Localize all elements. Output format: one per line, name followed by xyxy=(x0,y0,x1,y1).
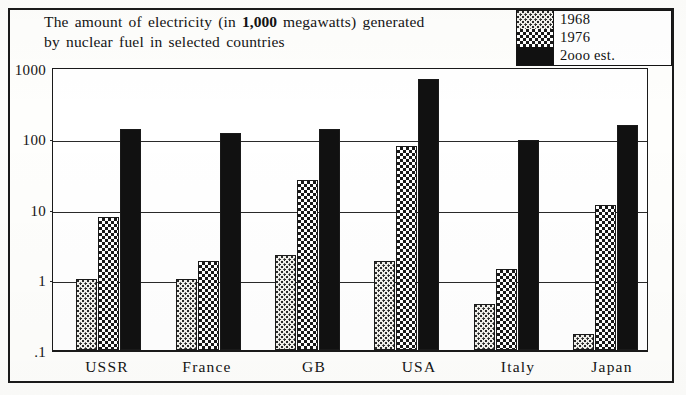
legend-labels: 1968 1976 2ooo est. xyxy=(554,11,671,65)
bar-gb-2000 xyxy=(319,129,340,350)
bar-france-2000 xyxy=(220,133,241,350)
bar-japan-1968 xyxy=(573,334,594,350)
chart-figure: The amount of electricity (in 1,000 mega… xyxy=(0,0,686,395)
y-tick-label-1: 1 xyxy=(38,273,46,290)
legend-label-2000: 2ooo est. xyxy=(560,47,671,65)
chart-title-emphasis: 1,000 xyxy=(242,13,277,30)
x-label-gb: GB xyxy=(302,358,326,376)
y-axis: 1000 100 10 1 .1 xyxy=(0,0,46,395)
bar-france-1968 xyxy=(176,279,197,350)
x-label-usa: USA xyxy=(402,358,437,376)
chart-title-part-2: megawatts) generated xyxy=(277,13,425,30)
bar-japan-2000 xyxy=(617,125,638,351)
x-label-italy: Italy xyxy=(501,358,535,376)
bar-italy-1976 xyxy=(496,269,517,350)
bar-ussr-2000 xyxy=(120,129,141,350)
chart-title-part-1: The amount of electricity (in xyxy=(44,13,242,30)
bar-italy-2000 xyxy=(518,140,539,350)
bar-japan-1976 xyxy=(595,205,616,350)
bars-layer xyxy=(53,69,647,350)
x-label-ussr: USSR xyxy=(85,358,129,376)
chart-title-line-1: The amount of electricity (in 1,000 mega… xyxy=(44,12,514,32)
legend: 1968 1976 2ooo est. xyxy=(516,10,672,66)
bar-gb-1976 xyxy=(297,180,318,350)
y-tick-label-10: 10 xyxy=(30,203,46,220)
x-label-japan: Japan xyxy=(591,358,632,376)
legend-swatch-1976 xyxy=(517,29,553,47)
legend-label-1968: 1968 xyxy=(560,11,671,29)
bar-france-1976 xyxy=(198,261,219,350)
bar-ussr-1968 xyxy=(76,279,97,350)
x-label-france: France xyxy=(182,358,231,376)
bar-usa-1968 xyxy=(374,261,395,350)
bar-usa-2000 xyxy=(418,79,439,350)
plot-inner xyxy=(53,69,647,350)
bar-italy-1968 xyxy=(474,304,495,350)
legend-swatch-1968 xyxy=(517,11,553,29)
y-tick-label-100: 100 xyxy=(23,132,46,149)
chart-title: The amount of electricity (in 1,000 mega… xyxy=(44,12,514,60)
chart-title-line-2: by nuclear fuel in selected countries xyxy=(44,32,514,52)
plot-area xyxy=(52,68,648,352)
legend-swatch-2000 xyxy=(517,47,553,65)
bar-ussr-1976 xyxy=(98,217,119,350)
bar-gb-1968 xyxy=(275,255,296,350)
legend-swatches xyxy=(517,11,554,65)
y-tick-label-1000: 1000 xyxy=(15,62,46,79)
bar-usa-1976 xyxy=(396,146,417,350)
x-axis: USSR France GB USA Italy Japan xyxy=(0,358,686,384)
legend-label-1976: 1976 xyxy=(560,29,671,47)
